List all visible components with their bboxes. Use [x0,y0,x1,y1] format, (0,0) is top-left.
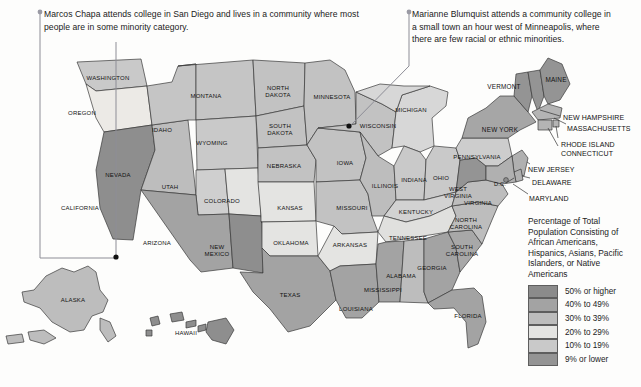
legend-label: 9% or lower [565,355,608,364]
state-idaho[interactable] [147,64,196,125]
state-rhode-island[interactable] [553,120,559,127]
legend-swatch [528,285,558,299]
legend-row[interactable]: 20% to 29% [528,325,636,339]
legend-items: 50% or higher40% to 49%30% to 39%20% to … [528,285,636,367]
legend-label: 40% to 49% [565,300,609,309]
legend-label: 50% or higher [565,287,616,296]
callout-right-text: Marianne Blumquist attends a community c… [412,9,611,44]
state-louisiana[interactable] [330,264,379,318]
legend-row[interactable]: 9% or lower [528,353,636,367]
state-utah[interactable] [196,169,229,215]
state-connecticut[interactable] [538,120,552,130]
legend-label: 20% to 29% [565,328,609,337]
inset-label-new-jersey: NEW JERSEY [528,166,575,173]
legend-swatch [528,325,558,339]
state-indiana[interactable] [394,146,426,200]
legend-row[interactable]: 40% to 49% [528,298,636,312]
state-wyoming[interactable] [196,116,258,170]
legend-row[interactable]: 10% to 19% [528,339,636,353]
state-new-mexico[interactable] [229,214,263,273]
legend-row[interactable]: 30% to 39% [528,312,636,326]
legend-title: Percentage of Total Population Consistin… [528,216,632,280]
legend-label: 30% to 39% [565,314,609,323]
inset-label-delaware: DELAWARE [532,179,572,186]
state-mississippi[interactable] [376,241,404,302]
state-ohio[interactable] [424,146,460,200]
state-iowa[interactable] [307,128,366,182]
state-hawaii[interactable] [146,312,234,344]
state-colorado[interactable] [225,168,261,216]
inset-label-massachusetts: MASSACHUSETTS [567,125,631,132]
map-legend: Percentage of Total Population Consistin… [528,216,636,366]
state-nebraska[interactable] [258,145,316,182]
legend-swatch [528,298,558,312]
inset-label-connecticut: CONNECTICUT [561,150,613,157]
inset-label-maryland: MARYLAND [529,195,569,202]
state-oregon[interactable] [86,84,152,132]
inset-label-rhode-island: RHODE ISLAND [561,141,615,148]
legend-label: 10% to 19% [565,341,609,350]
state-maine[interactable] [540,58,570,104]
legend-row[interactable]: 50% or higher [528,285,636,299]
callout-marianne-blumquist: Marianne Blumquist attends a community c… [412,8,612,46]
callout-marcos-chapa: Marcos Chapa attends college in San Dieg… [44,8,379,33]
callout-left-text: Marcos Chapa attends college in San Dieg… [44,9,359,32]
legend-swatch [528,312,558,326]
inset-label-new-hampshire: NEW HAMPSHIRE [563,114,624,121]
legend-swatch [528,339,558,353]
legend-swatch [528,353,558,367]
state-oklahoma[interactable] [261,221,318,256]
state-alaska[interactable] [6,266,116,344]
state-kansas[interactable] [258,182,316,222]
map-figure: .s{stroke:#3a3a3a;stroke-width:.7;stroke… [0,0,641,387]
